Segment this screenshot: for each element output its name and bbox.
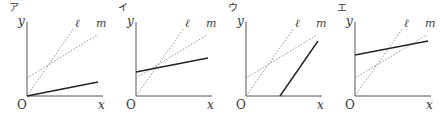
graph-panel: エyxOℓm xyxy=(337,2,435,112)
answer-line xyxy=(355,41,428,55)
reference-line-l xyxy=(27,28,74,96)
reference-line-label: m xyxy=(96,17,106,30)
reference-line-label: ℓ xyxy=(185,17,190,30)
panel-label: ウ xyxy=(228,2,238,13)
x-axis-label: x xyxy=(317,98,324,112)
answer-line xyxy=(136,58,208,72)
x-axis-label: x xyxy=(426,98,433,112)
reference-line-label: ℓ xyxy=(75,17,80,30)
reference-line-m xyxy=(355,35,427,78)
reference-line-l xyxy=(355,28,403,96)
reference-line-m xyxy=(27,35,97,78)
linear-function-graphs: アyxOℓmイyxOℓmウyxOℓmエyxOℓm xyxy=(0,0,443,117)
graph-panel: ウyxOℓm xyxy=(228,2,326,112)
x-axis-label: x xyxy=(207,98,214,112)
origin-label: O xyxy=(17,98,27,112)
graph-panel: アyxOℓm xyxy=(9,2,106,112)
answer-line xyxy=(27,82,98,96)
panel-label: ア xyxy=(9,2,19,13)
panel-label: エ xyxy=(337,2,347,13)
y-axis-label: y xyxy=(17,14,25,28)
reference-line-label: m xyxy=(206,17,216,30)
reference-line-m xyxy=(136,35,207,78)
panel-label: イ xyxy=(118,2,128,13)
graph-panel: イyxOℓm xyxy=(118,2,216,112)
origin-label: O xyxy=(345,98,355,112)
reference-line-m xyxy=(246,35,317,78)
y-axis-label: y xyxy=(345,14,353,28)
reference-line-label: ℓ xyxy=(295,17,300,30)
reference-line-label: ℓ xyxy=(404,17,409,30)
reference-line-l xyxy=(136,28,184,96)
y-axis-label: y xyxy=(126,14,134,28)
reference-line-label: m xyxy=(425,17,435,30)
x-axis-label: x xyxy=(98,98,105,112)
origin-label: O xyxy=(126,98,136,112)
y-axis-label: y xyxy=(236,14,244,28)
answer-line xyxy=(280,41,318,96)
reference-line-label: m xyxy=(316,17,326,30)
origin-label: O xyxy=(236,98,246,112)
